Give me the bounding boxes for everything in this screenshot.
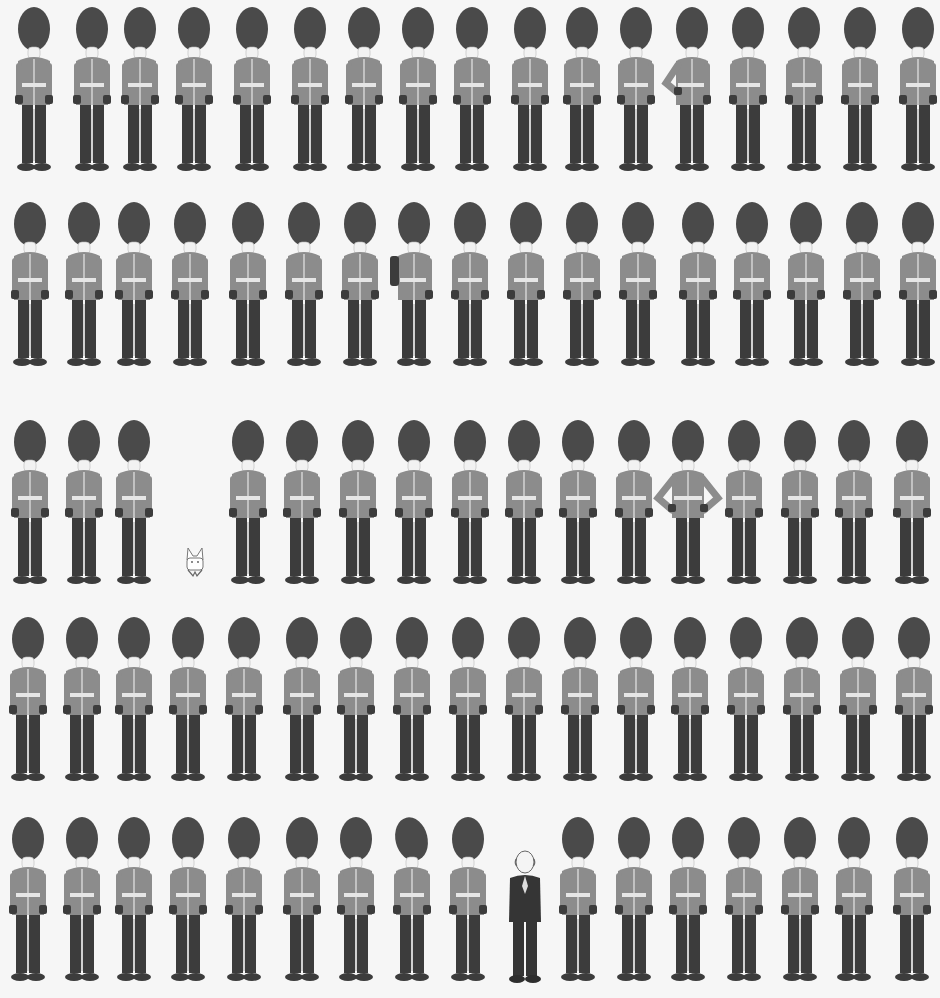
guard-figure [832,418,876,588]
guard-figure [730,200,774,370]
guard-figure [6,815,50,985]
guard-figure [726,5,770,175]
guard-figure [342,5,386,175]
guard-figure [166,615,210,785]
guard-figure [172,5,216,175]
guard-figure [338,200,382,370]
guard-figure [226,200,270,370]
guard-figure [280,418,324,588]
guard-figure [230,5,274,175]
guard-figure [724,615,768,785]
guard-figure [12,5,56,175]
guard-figure [614,5,658,175]
guard-figure [504,200,548,370]
guard-figure [118,5,162,175]
guard-figure [8,418,52,588]
guard-figure [70,5,114,175]
guard-figure [396,5,440,175]
guard-figure [280,615,324,785]
guard-figure [556,815,600,985]
guard-figure [288,5,332,175]
guard-figure [446,815,490,985]
guard-figure [448,200,492,370]
guard-figure [62,200,106,370]
rabbit-figure [184,546,206,578]
guard-figure [890,418,934,588]
guard-figure-hands-on-hips [666,418,710,588]
guard-figure [722,418,766,588]
guard-figure [334,615,378,785]
guard-figure-saluting [392,200,436,370]
guard-figure [334,815,378,985]
guard-figure [784,200,828,370]
guard-figure [778,418,822,588]
guard-figure [502,615,546,785]
guard-figure [558,615,602,785]
guard-figure [502,418,546,588]
guard-figure [832,815,876,985]
guard-figure [60,615,104,785]
guard-figure [666,815,710,985]
guard-figure [112,615,156,785]
guard-figure [62,418,106,588]
guard-figure [778,815,822,985]
guard-figure [282,200,326,370]
guard-figure [336,418,380,588]
guard-figure [8,200,52,370]
guard-figure [560,200,604,370]
guard-figure [612,815,656,985]
man-in-suit-figure [505,850,545,985]
guard-figure [280,815,324,985]
guard-figure [112,815,156,985]
guard-figure [896,5,940,175]
guard-figure [166,815,210,985]
guard-figure [722,815,766,985]
guard-figure [446,615,490,785]
guard-figure [508,5,552,175]
guard-figure [450,5,494,175]
guard-figure [892,615,936,785]
guard-figure [840,200,884,370]
guard-figure [616,200,660,370]
guard-figure [560,5,604,175]
guard-figure-tilted-hat [390,815,434,985]
guard-figure [112,200,156,370]
guard-figure [60,815,104,985]
guard-figure [556,418,600,588]
guard-figure [226,418,270,588]
guard-figure [168,200,212,370]
guard-figure [896,200,940,370]
guard-figure-hand-on-hip [670,5,714,175]
guard-figure [676,200,720,370]
guard-figure [782,5,826,175]
guard-figure [112,418,156,588]
guard-figure [612,418,656,588]
guard-figure [780,615,824,785]
guard-figure [222,815,266,985]
guard-figure [836,615,880,785]
guard-figure [392,418,436,588]
guard-figure [390,615,434,785]
guard-figure [668,615,712,785]
guard-figure [448,418,492,588]
guard-figure [890,815,934,985]
guard-figure [614,615,658,785]
guard-figure [838,5,882,175]
guard-figure [222,615,266,785]
guard-figure [6,615,50,785]
